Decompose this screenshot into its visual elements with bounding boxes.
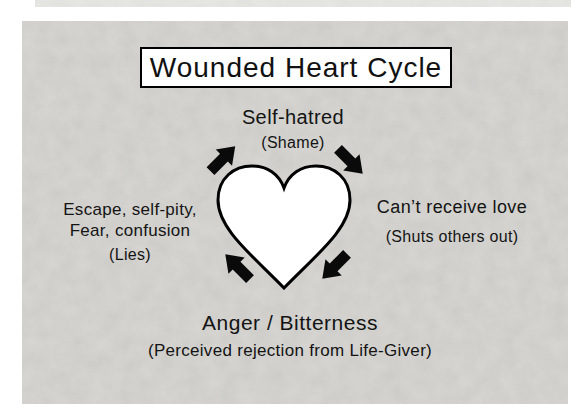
node-sublabel: (Shuts others out) (354, 227, 550, 246)
node-sublabel: (Perceived rejection from Life-Giver) (90, 341, 490, 361)
node-anger-bitterness: Anger / Bitterness (Perceived rejection … (90, 310, 490, 362)
node-label: Anger / Bitterness (90, 310, 490, 335)
slide-print-page: Wounded Heart Cycle Self-hatred (Shame) … (0, 0, 581, 420)
node-label: Self-hatred (193, 105, 393, 129)
previous-slide-edge (35, 0, 571, 7)
slide-title: Wounded Heart Cycle (150, 52, 442, 84)
node-label: Can’t receive love (354, 197, 550, 219)
node-cant-receive-love: Can’t receive love (Shuts others out) (354, 197, 550, 246)
slide-title-box: Wounded Heart Cycle (140, 47, 452, 88)
heart-cycle-graphic (190, 135, 370, 300)
slide-canvas: Wounded Heart Cycle Self-hatred (Shame) … (22, 21, 568, 404)
paper-texture (35, 0, 571, 7)
